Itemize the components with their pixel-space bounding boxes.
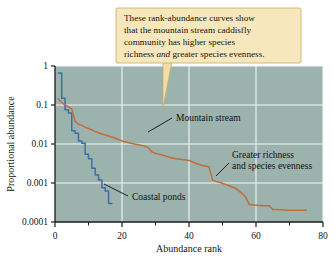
callout-line4-part1: richness (124, 49, 156, 59)
callout-line-2: that the mountain stream caddisfly (124, 25, 251, 35)
x-tick-label: 80 (318, 231, 328, 241)
rank-abundance-figure: 10.10.010.0010.0001020406080 Abundance r… (0, 0, 336, 262)
x-tick-label: 60 (251, 231, 261, 241)
annotation-greater-richness-line1: Greater richness (232, 150, 294, 160)
x-tick-label: 40 (184, 231, 194, 241)
callout-line-4: richness and greater species evenness. (124, 49, 265, 59)
callout-line-3: community has higher species (124, 37, 235, 47)
y-tick-label: 0.0001 (22, 217, 48, 227)
chart-canvas: 10.10.010.0010.0001020406080 Abundance r… (0, 0, 336, 262)
y-tick-label: 0.1 (36, 100, 48, 110)
y-tick-label: 0.01 (31, 139, 48, 149)
y-tick-label: 1 (43, 61, 48, 71)
annotation-coastal-ponds: Coastal ponds (132, 192, 186, 202)
annotation-greater-richness-line2: and species evenness (232, 161, 312, 171)
x-tick-label: 0 (53, 231, 58, 241)
y-tick-label: 0.001 (27, 178, 49, 188)
y-axis-title: Proportional abundance (5, 96, 16, 192)
x-axis-title: Abundance rank (156, 243, 222, 254)
x-tick-label: 20 (117, 231, 127, 241)
annotation-mountain-stream: Mountain stream (176, 113, 241, 123)
callout-line4-part2: greater species evenness. (170, 49, 264, 59)
callout-line-1: These rank-abundance curves show (124, 13, 255, 23)
callout-line4-emphasis: and (156, 49, 170, 59)
